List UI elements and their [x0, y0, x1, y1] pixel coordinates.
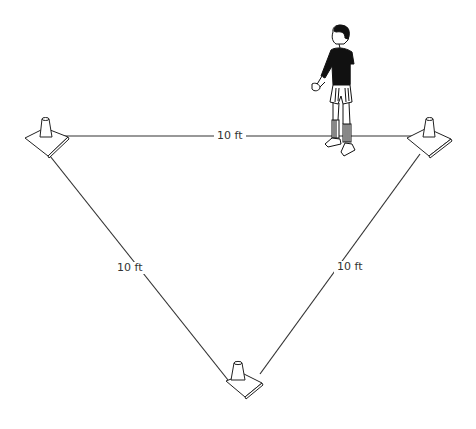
cone-icon — [226, 361, 263, 399]
right-edge-label: 10 ft — [334, 261, 366, 273]
cone-icon — [25, 118, 69, 159]
cone-icon — [407, 118, 452, 159]
top-edge-label: 10 ft — [214, 130, 246, 142]
triangle-edges — [50, 136, 420, 380]
left-edge-label: 10 ft — [114, 262, 146, 274]
drill-diagram — [0, 0, 476, 429]
